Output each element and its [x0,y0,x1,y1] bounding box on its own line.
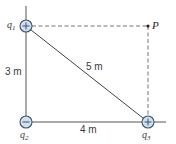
distance-horizontal-label: 4 m [80,124,97,135]
distance-diagonal-label: 5 m [86,61,103,72]
distance-vertical-label: 3 m [5,66,22,77]
charge-q1 [20,20,32,32]
charge-q3 [142,116,154,128]
point-p-label: P [151,19,159,31]
charge-diagram: P q1 q2 q3 3 m 5 m 4 m [0,0,176,144]
q1-label: q1 [7,19,16,32]
q2-label: q2 [20,129,29,142]
charge-q2 [20,116,32,128]
diagonal-line-q1-q3 [26,26,148,122]
q3-label: q3 [142,129,151,142]
point-p-dot [146,24,149,27]
